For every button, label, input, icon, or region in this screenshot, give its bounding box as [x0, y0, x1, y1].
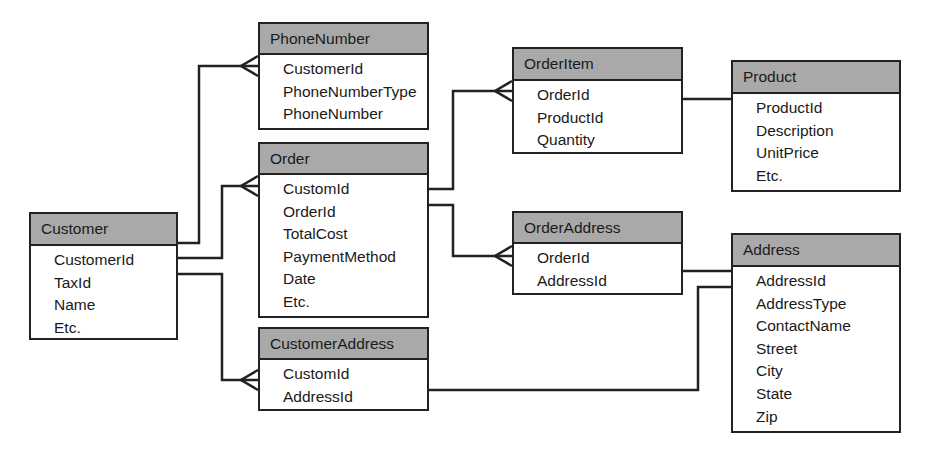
- entity-order: Order CustomId OrderId TotalCost Payment…: [258, 142, 429, 318]
- entity-field: TaxId: [54, 272, 176, 295]
- relationship-line: [429, 287, 731, 390]
- entity-field: CustomerId: [283, 58, 427, 81]
- er-diagram: Customer CustomerId TaxId Name Etc. Phon…: [0, 0, 931, 462]
- entity-title: OrderItem: [514, 49, 681, 81]
- entity-fields: CustomerId TaxId Name Etc.: [31, 246, 176, 339]
- entity-field: Name: [54, 294, 176, 317]
- entity-product: Product ProductId Description UnitPrice …: [731, 60, 901, 192]
- entity-orderitem: OrderItem OrderId ProductId Quantity: [512, 47, 683, 154]
- relationship-line: [178, 66, 258, 243]
- entity-field: Description: [756, 120, 899, 143]
- entity-field: State: [756, 383, 899, 406]
- entity-fields: CustomId OrderId TotalCost PaymentMethod…: [260, 175, 427, 314]
- entity-title: CustomerAddress: [260, 329, 427, 360]
- relationship-line: [178, 274, 258, 380]
- entity-field: ProductId: [756, 97, 899, 120]
- entity-field: ContactName: [756, 315, 899, 338]
- entity-field: ProductId: [537, 107, 681, 130]
- entity-field: City: [756, 360, 899, 383]
- entity-field: OrderId: [283, 201, 427, 224]
- entity-address: Address AddressId AddressType ContactNam…: [731, 233, 901, 433]
- entity-field: Etc.: [283, 291, 427, 314]
- entity-customeraddress: CustomerAddress CustomId AddressId: [258, 327, 429, 411]
- entity-fields: OrderId AddressId: [514, 244, 681, 292]
- entity-title: Product: [733, 62, 899, 94]
- entity-phonenumber: PhoneNumber CustomerId PhoneNumberType P…: [258, 22, 429, 130]
- entity-field: CustomerId: [54, 249, 176, 272]
- entity-field: PhoneNumberType: [283, 81, 427, 104]
- entity-title: Customer: [31, 214, 176, 246]
- entity-field: AddressId: [537, 270, 681, 293]
- entity-fields: AddressId AddressType ContactName Street…: [733, 267, 899, 428]
- entity-field: OrderId: [537, 84, 681, 107]
- relationship-line: [178, 186, 258, 258]
- entity-field: Etc.: [756, 165, 899, 188]
- entity-field: Etc.: [54, 317, 176, 340]
- entity-field: CustomId: [283, 363, 427, 386]
- entity-field: Street: [756, 338, 899, 361]
- entity-field: PaymentMethod: [283, 246, 427, 269]
- entity-field: AddressId: [283, 386, 427, 409]
- entity-customer: Customer CustomerId TaxId Name Etc.: [29, 212, 178, 340]
- entity-field: Quantity: [537, 129, 681, 152]
- entity-field: TotalCost: [283, 223, 427, 246]
- entity-field: PhoneNumber: [283, 103, 427, 126]
- entity-title: Order: [260, 144, 427, 175]
- entity-field: UnitPrice: [756, 142, 899, 165]
- relationship-line: [429, 91, 512, 189]
- entity-fields: CustomerId PhoneNumberType PhoneNumber: [260, 55, 427, 126]
- entity-orderaddress: OrderAddress OrderId AddressId: [512, 211, 683, 295]
- entity-title: PhoneNumber: [260, 24, 427, 55]
- entity-title: OrderAddress: [514, 213, 681, 244]
- entity-title: Address: [733, 235, 899, 267]
- entity-field: Date: [283, 268, 427, 291]
- entity-field: OrderId: [537, 247, 681, 270]
- entity-field: Zip: [756, 406, 899, 429]
- entity-fields: OrderId ProductId Quantity: [514, 81, 681, 152]
- entity-fields: CustomId AddressId: [260, 360, 427, 408]
- entity-field: AddressId: [756, 270, 899, 293]
- relationship-line: [429, 205, 512, 256]
- entity-fields: ProductId Description UnitPrice Etc.: [733, 94, 899, 187]
- entity-field: AddressType: [756, 293, 899, 316]
- entity-field: CustomId: [283, 178, 427, 201]
